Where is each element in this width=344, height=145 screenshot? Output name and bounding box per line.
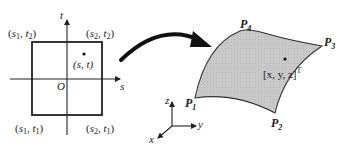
mapping-arrow <box>121 31 212 60</box>
parametric-mapping-diagram: t s O (s1, t2) (s2, t2) (s1, t1) (s2, t1… <box>0 0 344 145</box>
mapping-arrow-head-icon <box>190 31 212 47</box>
corner-label-bottom-left: (s1, t1) <box>15 122 44 136</box>
parameter-point-label: (s, t) <box>73 58 94 71</box>
corner-label-bottom-right: (s2, t1) <box>86 122 115 136</box>
surface-shape <box>195 30 322 113</box>
s-axis-label: s <box>120 80 124 92</box>
mapping-arrow-curve <box>121 34 200 60</box>
world-axes: z y x <box>148 94 203 145</box>
corner-label-top-left: (s1, t2) <box>8 27 37 41</box>
parameter-domain: t s O (s1, t2) (s2, t2) (s1, t1) (s2, t1… <box>8 9 124 136</box>
surface-patch: [x, y, z]T P1 P2 P3 P4 <box>185 17 335 132</box>
x-axis-label: x <box>148 133 154 145</box>
surface-corner-p4: P4 <box>240 17 251 33</box>
corner-label-top-right: (s2, t2) <box>86 27 115 41</box>
origin-label: O <box>57 80 65 92</box>
x-axis <box>158 126 172 138</box>
surface-point-label: [x, y, z]T <box>263 66 302 80</box>
y-axis-label: y <box>197 118 203 130</box>
surface-corner-p2: P2 <box>271 116 282 132</box>
parameter-point-dot <box>82 52 85 55</box>
t-axis-label: t <box>60 9 64 21</box>
z-axis-label: z <box>164 94 170 106</box>
surface-corner-p3: P3 <box>324 35 335 51</box>
surface-point-dot <box>283 57 286 60</box>
